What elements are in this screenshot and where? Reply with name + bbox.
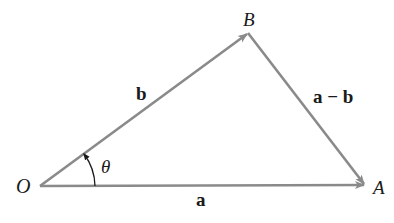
angle-label-theta: θ [101,157,110,176]
vector-b-arrow [40,34,247,186]
vector-label-a-minus-b: a − b [313,87,353,106]
vector-a-arrow [40,185,364,186]
point-label-a: A [373,178,385,197]
vector-a-minus-b-arrow [248,33,364,184]
vector-label-a: a [196,190,206,209]
angle-arc [84,154,95,186]
point-label-o: O [16,176,30,196]
point-label-b: B [243,10,255,29]
vector-label-b: b [136,84,147,103]
vector-diagram: O A B a b a − b θ [0,0,394,223]
